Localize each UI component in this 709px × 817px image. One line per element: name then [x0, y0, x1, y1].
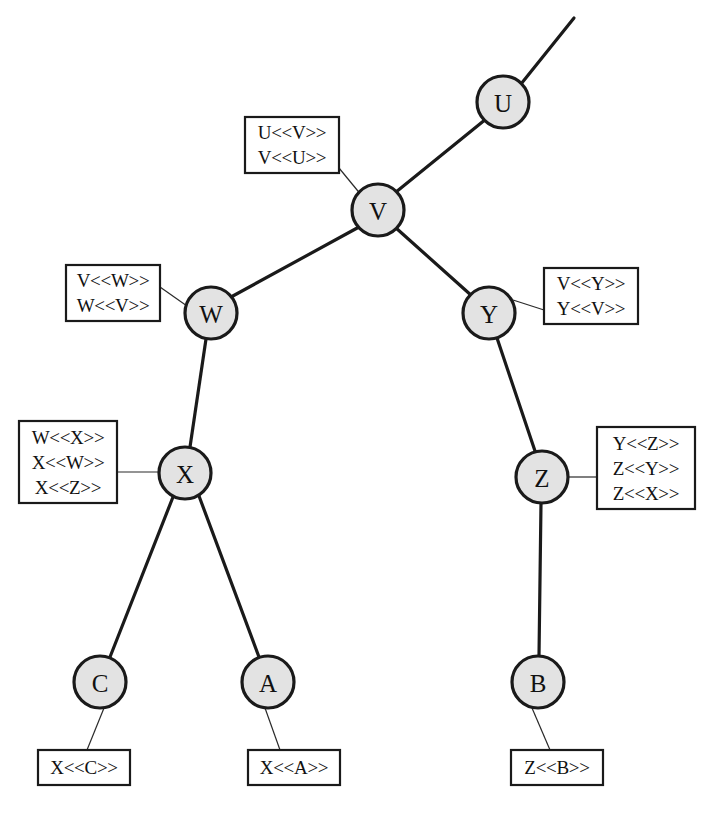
node-label-z: Z [534, 465, 549, 492]
graph-node-y[interactable]: Y [463, 287, 515, 339]
graph-diagram: UVWYXZCAB U<<V>>V<<U>>V<<W>>W<<V>>V<<Y>>… [0, 0, 709, 817]
annotation-line-v-1: V<<U>> [258, 147, 327, 168]
graph-edge-x-a [199, 496, 259, 657]
graph-node-b[interactable]: B [512, 656, 564, 708]
annotation-box-z[interactable]: Y<<Z>>Z<<Y>>Z<<X>> [597, 427, 695, 509]
node-label-a: A [259, 670, 277, 697]
node-label-w: W [199, 301, 223, 328]
annotation-line-w-1: W<<V>> [77, 295, 150, 316]
annotation-line-y-0: V<<Y>> [557, 273, 626, 294]
annotation-line-x-0: W<<X>> [32, 427, 105, 448]
graph-edge-w-x [190, 339, 206, 447]
node-label-v: V [369, 198, 387, 225]
annotation-line-y-1: Y<<V>> [557, 298, 626, 319]
graph-node-w[interactable]: W [185, 287, 237, 339]
annotation-line-x-2: X<<Z>> [35, 477, 101, 498]
annotation-line-a-0: X<<A>> [260, 757, 329, 778]
graph-edge-x-c [110, 497, 173, 657]
annotation-line-z-2: Z<<X>> [613, 483, 679, 504]
graph-edge-v-y [396, 228, 472, 296]
node-label-y: Y [480, 301, 498, 328]
annotation-box-x[interactable]: W<<X>>X<<W>>X<<Z>> [19, 421, 117, 503]
annotation-box-v[interactable]: U<<V>>V<<U>> [245, 117, 339, 173]
graph-edge-y-z [497, 338, 535, 451]
annotation-line-w-0: V<<W>> [77, 270, 150, 291]
node-label-x: X [176, 461, 194, 488]
leader-line-a [265, 708, 280, 750]
annotation-box-c[interactable]: X<<C>> [38, 750, 130, 785]
diagram-canvas: UVWYXZCAB U<<V>>V<<U>>V<<W>>W<<V>>V<<Y>>… [0, 0, 709, 817]
annotation-line-c-0: X<<C>> [50, 757, 117, 778]
graph-edge-u-upper-right-open [521, 18, 574, 84]
graph-edge-z-b [539, 503, 541, 656]
annotation-line-z-0: Y<<Z>> [613, 433, 679, 454]
node-label-u: U [494, 90, 512, 117]
annotation-line-z-1: Z<<Y>> [613, 458, 679, 479]
graph-node-a[interactable]: A [242, 656, 294, 708]
annotation-box-w[interactable]: V<<W>>W<<V>> [66, 265, 160, 321]
annotation-line-b-0: Z<<B>> [524, 757, 589, 778]
node-label-c: C [92, 670, 109, 697]
annotation-box-a[interactable]: X<<A>> [248, 750, 340, 785]
graph-node-v[interactable]: V [352, 184, 404, 236]
leader-line-y [513, 300, 544, 310]
leader-line-w [160, 287, 187, 306]
leader-line-c [87, 708, 104, 750]
annotation-box-b[interactable]: Z<<B>> [511, 750, 603, 785]
graph-node-x[interactable]: X [159, 447, 211, 499]
graph-edge-v-w [231, 227, 359, 297]
graph-node-z[interactable]: Z [516, 451, 568, 503]
annotation-line-x-1: X<<W>> [32, 452, 105, 473]
leader-line-b [532, 708, 550, 750]
annotation-box-y[interactable]: V<<Y>>Y<<V>> [544, 268, 638, 324]
graph-node-u[interactable]: U [477, 76, 529, 128]
node-label-b: B [530, 670, 547, 697]
annotation-line-v-0: U<<V>> [258, 122, 327, 143]
graph-edge-v-u [396, 119, 486, 192]
graph-node-c[interactable]: C [74, 656, 126, 708]
